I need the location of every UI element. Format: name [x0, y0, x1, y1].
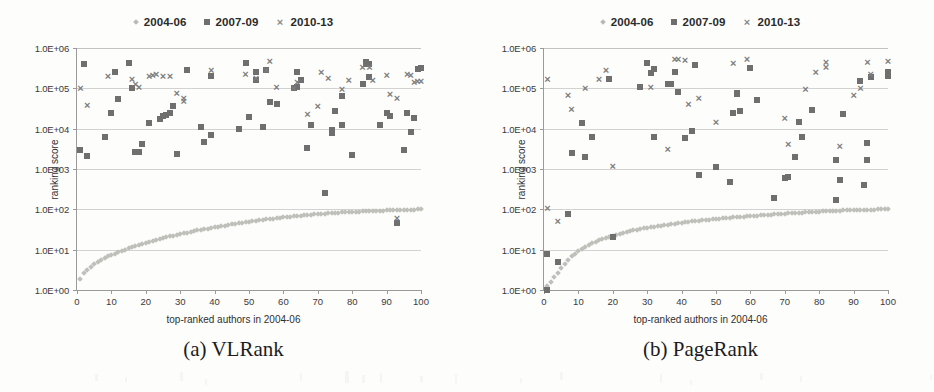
data-point [408, 129, 414, 135]
data-point [668, 81, 674, 87]
legend-label: 2004-06 [144, 16, 187, 28]
y-tick-label: 1.0E+04 [502, 123, 536, 134]
data-point [837, 177, 843, 183]
y-tick-mark [540, 129, 544, 130]
x-tick-mark [249, 290, 250, 294]
data-point: × [543, 75, 552, 84]
cross-icon: × [742, 18, 751, 27]
legend-item-2007-09: 2007-09 [204, 16, 259, 28]
data-point [139, 141, 145, 147]
data-point [401, 147, 407, 153]
x-tick-mark [111, 290, 112, 294]
data-point [727, 179, 733, 185]
data-point: × [646, 83, 655, 92]
data-point [126, 60, 132, 66]
x-tick-mark [318, 290, 319, 294]
data-point [651, 134, 657, 140]
x-tick-label: 40 [676, 296, 687, 307]
data-point: × [663, 144, 672, 153]
y-tick-label: 1.0E+06 [502, 43, 536, 54]
data-point: × [392, 93, 401, 102]
data-point: × [179, 96, 188, 105]
data-point [170, 103, 176, 109]
y-tick-label: 1.0E+02 [502, 204, 536, 215]
data-point [339, 122, 345, 128]
data-point [796, 119, 802, 125]
x-tick-label: 80 [814, 296, 825, 307]
data-point [304, 145, 310, 151]
data-point [689, 128, 695, 134]
x-tick-label: 90 [381, 296, 392, 307]
data-point: × [272, 82, 281, 91]
data-point [115, 96, 121, 102]
data-point [589, 134, 595, 140]
plot-area-vlrank: 1.0E+001.0E+011.0E+021.0E+031.0E+041.0E+… [76, 48, 421, 291]
data-point [329, 130, 335, 136]
data-point: × [581, 84, 590, 93]
data-point [558, 265, 564, 271]
y-tick-label: 1.0E+04 [35, 123, 69, 134]
data-point: × [207, 66, 216, 75]
x-tick-label: 0 [74, 296, 79, 307]
data-point [644, 60, 650, 66]
y-tick-mark [73, 129, 77, 130]
x-tick-label: 70 [313, 296, 324, 307]
data-point [861, 182, 867, 188]
data-point [544, 287, 550, 293]
data-point [582, 154, 588, 160]
y-tick-mark [540, 48, 544, 49]
data-point [418, 65, 424, 71]
data-point [174, 151, 180, 157]
data-point [146, 120, 152, 126]
data-point [322, 190, 328, 196]
data-point: × [553, 217, 562, 226]
y-tick-label: 1.0E+00 [502, 285, 536, 296]
y-tick-mark [540, 250, 544, 251]
data-point [840, 111, 846, 117]
data-point: × [293, 78, 302, 87]
x-tick-label: 10 [106, 296, 117, 307]
data-point: × [103, 72, 112, 81]
data-point [418, 206, 424, 212]
data-point [260, 124, 266, 130]
y-tick-label: 1.0E+00 [35, 285, 69, 296]
x-tick-mark [750, 290, 751, 294]
y-tick-mark [73, 250, 77, 251]
data-point: × [595, 75, 604, 84]
x-tick-label: 40 [209, 296, 220, 307]
data-point [136, 149, 142, 155]
y-tick-label: 1.0E+02 [35, 204, 69, 215]
legend-label: 2007-09 [683, 16, 726, 28]
data-point [799, 134, 805, 140]
data-point [274, 101, 280, 107]
data-point [864, 157, 870, 163]
data-point [696, 172, 702, 178]
data-point [112, 69, 118, 75]
data-point: × [694, 94, 703, 103]
legend-item-2010-13: × 2010-13 [742, 16, 800, 28]
data-point: × [324, 74, 333, 83]
x-tick-mark [888, 290, 889, 294]
data-point: × [303, 110, 312, 119]
figure-container: 2004-06 2007-09 × 2010-13 ranking score … [0, 0, 934, 392]
data-point [833, 197, 839, 203]
data-point [672, 69, 678, 75]
x-tick-label: 100 [413, 296, 429, 307]
data-point: × [251, 74, 260, 83]
data-point: × [134, 82, 143, 91]
gridline [77, 129, 421, 130]
data-point [84, 153, 90, 159]
y-tick-label: 1.0E+01 [502, 244, 536, 255]
data-point: × [165, 72, 174, 81]
data-point: × [608, 161, 617, 170]
data-point: × [601, 65, 610, 74]
data-point [108, 110, 114, 116]
data-point [78, 276, 84, 282]
data-point [864, 140, 870, 146]
panel-caption-vlrank: (a) VLRank [0, 337, 467, 362]
data-point [81, 61, 87, 67]
x-axis-title: top-ranked authors in 2004-06 [467, 314, 934, 325]
x-tick-label: 60 [745, 296, 756, 307]
y-tick-mark [73, 169, 77, 170]
panel-caption-pagerank: (b) PageRank [467, 337, 934, 362]
